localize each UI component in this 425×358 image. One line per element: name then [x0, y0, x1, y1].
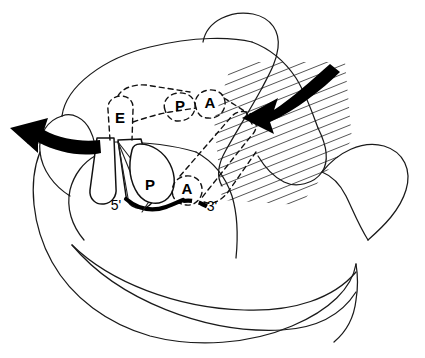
hatched-region-icon: [190, 18, 370, 279]
trna-a-site-body-edge: [204, 152, 256, 203]
mrna-3-prime-label: 3': [207, 198, 217, 214]
trna-e-hybrid-body: [118, 85, 190, 96]
site-label-a-classical: A: [182, 180, 193, 197]
site-label-p-classical: P: [145, 176, 155, 193]
ribosome-schematic-canvas: P A E P A 5' 3': [0, 0, 425, 358]
site-label-e-hybrid: E: [115, 109, 125, 126]
right-protrusion-upper: [322, 144, 408, 240]
small-subunit-outline: [33, 152, 356, 343]
large-subunit-outline: [62, 38, 252, 116]
site-label-p-hybrid: P: [175, 97, 185, 114]
right-protrusion-lower: [322, 172, 368, 240]
small-subunit-platform-curve: [72, 245, 356, 310]
site-label-a-hybrid: A: [205, 94, 216, 111]
exit-arrow-icon: [10, 118, 101, 155]
small-subunit-body-curve: [72, 245, 356, 330]
ribosome-diagram: P A E P A 5' 3': [0, 0, 425, 358]
small-subunit-right-edge: [334, 264, 358, 342]
mrna-5-prime-label: 5': [111, 197, 121, 213]
